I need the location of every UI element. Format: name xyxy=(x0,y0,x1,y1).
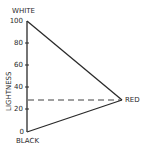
lightness-triangle-diagram: WHITE 100 80 60 40 20 0 LIGHTNESS BLACK … xyxy=(0,0,147,153)
tick-label-80: 80 xyxy=(5,40,23,47)
white-label: WHITE xyxy=(12,8,35,15)
tick-label-0: 0 xyxy=(5,129,24,136)
tick-label-60: 60 xyxy=(5,62,23,69)
black-label: BLACK xyxy=(16,138,39,145)
white-red-edge xyxy=(27,21,122,100)
black-red-edge xyxy=(27,100,122,132)
tick-label-100: 100 xyxy=(5,18,23,25)
lightness-axis-title: LIGHTNESS xyxy=(6,72,13,111)
red-label: RED xyxy=(125,97,140,104)
